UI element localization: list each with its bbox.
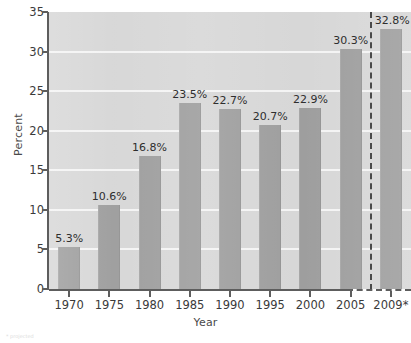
bar-value-label: 23.5% [172, 88, 207, 101]
x-axis-tick [269, 291, 271, 297]
y-axis-tick [42, 169, 48, 171]
bar [219, 109, 241, 289]
x-axis-tick-label: 1995 [256, 298, 285, 312]
bar [299, 108, 321, 289]
bar-value-label: 30.3% [333, 34, 368, 47]
x-axis-line-dashed-segment [347, 289, 411, 291]
bar-chart: Percent 05101520253035 5.3%10.6%16.8%23.… [0, 0, 411, 343]
x-axis-tick [229, 291, 231, 297]
bar [98, 205, 120, 289]
x-axis-tick [68, 291, 70, 297]
x-axis-tick-label: 2009* [373, 298, 408, 312]
x-axis-tick-label: 2005 [336, 298, 365, 312]
x-axis-tick [108, 291, 110, 297]
x-axis-tick [390, 291, 392, 297]
y-axis-tick-label: 15 [20, 163, 44, 177]
x-axis-tick-label: 1975 [95, 298, 124, 312]
x-axis-tick-label: 1970 [54, 298, 83, 312]
y-axis-tick [42, 11, 48, 13]
bar-value-label: 10.6% [92, 190, 127, 203]
forecast-divider-line [370, 12, 372, 290]
x-axis-tick [309, 291, 311, 297]
y-axis-tick [42, 248, 48, 250]
y-axis-tick-label: 25 [20, 84, 44, 98]
y-axis-tick-label: 5 [20, 242, 44, 256]
y-axis-tick-label: 20 [20, 124, 44, 138]
x-axis-tick-label: 2000 [296, 298, 325, 312]
y-axis-tick [42, 288, 48, 290]
x-axis-line [49, 289, 347, 291]
y-axis-tick-labels: 05101520253035 [16, 0, 44, 343]
bar-value-label: 16.8% [132, 141, 167, 154]
bar-value-label: 22.7% [213, 94, 248, 107]
bar-value-label: 32.8% [375, 14, 410, 27]
bar [340, 49, 362, 289]
x-axis-tick-label: 1980 [135, 298, 164, 312]
y-axis-tick-label: 0 [20, 282, 44, 296]
bar-value-label: 20.7% [253, 110, 288, 123]
x-axis-tick-label: 1985 [175, 298, 204, 312]
y-axis-tick-label: 35 [20, 5, 44, 19]
bar [139, 156, 161, 289]
x-axis-tick-label: 1990 [215, 298, 244, 312]
bar [259, 125, 281, 289]
x-axis-tick [149, 291, 151, 297]
bar [380, 29, 402, 289]
gridline [49, 11, 411, 13]
plot-area [49, 12, 411, 289]
y-axis-tick-label: 10 [20, 203, 44, 217]
bar-value-label: 22.9% [293, 93, 328, 106]
y-axis-tick [42, 90, 48, 92]
y-axis-tick [42, 51, 48, 53]
bar-value-label: 5.3% [55, 232, 83, 245]
x-axis-tick [189, 291, 191, 297]
bar [179, 103, 201, 289]
y-axis-tick-label: 30 [20, 45, 44, 59]
y-axis-tick [42, 130, 48, 132]
bar [58, 247, 80, 289]
x-axis-title: Year [0, 316, 411, 329]
y-axis-tick [42, 209, 48, 211]
x-axis-tick [350, 291, 352, 297]
footnote: * projected [6, 333, 34, 339]
